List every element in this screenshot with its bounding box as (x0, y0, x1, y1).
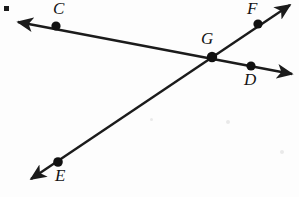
point-label-g: G (201, 30, 213, 47)
point-label-e: E (55, 167, 65, 184)
point-label-f: F (247, 0, 257, 17)
point-f (253, 19, 262, 28)
corner-square-mark (4, 6, 9, 11)
scan-speck (226, 120, 230, 124)
geometry-diagram: C G F D E (0, 0, 299, 197)
scan-speck (280, 150, 284, 154)
point-g (207, 52, 217, 62)
point-c (51, 21, 60, 30)
scan-speck (150, 118, 153, 121)
point-label-d: D (244, 71, 256, 88)
point-label-c: C (53, 0, 64, 17)
diagram-canvas (0, 0, 299, 197)
